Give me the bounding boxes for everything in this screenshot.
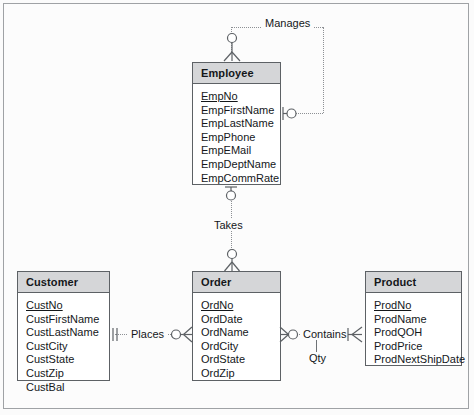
relationship-label-contains: Contains — [300, 328, 349, 340]
entity-employee[interactable]: Employee EmpNo EmpFirstName EmpLastName … — [192, 62, 281, 185]
cardinality-zero-or-many-contains-from — [278, 326, 302, 343]
attribute-ordstate: OrdState — [201, 353, 280, 367]
attribute-custcity: CustCity — [26, 340, 109, 354]
attribute-custlastname: CustLastName — [26, 326, 109, 340]
cardinality-exactly-one-places-from — [110, 327, 122, 342]
attribute-prodprice: ProdPrice — [374, 340, 461, 354]
entity-order-attributes: OrdNo OrdDate OrdName OrdCity OrdState O… — [193, 293, 280, 388]
entity-product-title: Product — [366, 272, 461, 293]
cardinality-one-or-many-contains-to — [344, 326, 366, 343]
entity-product[interactable]: Product ProdNo ProdName ProdQOH ProdPric… — [365, 271, 462, 366]
relationship-attribute-qty: Qty — [307, 352, 328, 364]
cardinality-zero-or-one-takes-from — [222, 184, 240, 206]
attribute-ordcity: OrdCity — [201, 340, 280, 354]
attribute-custno: CustNo — [26, 299, 109, 313]
attribute-emplastname: EmpLastName — [201, 117, 280, 131]
attribute-orddate: OrdDate — [201, 313, 280, 327]
attribute-custfirstname: CustFirstName — [26, 313, 109, 327]
relationship-label-manages: Manages — [262, 17, 313, 29]
attribute-empno: EmpNo — [201, 90, 280, 104]
attribute-custzip: CustZip — [26, 367, 109, 381]
attribute-empphone: EmpPhone — [201, 131, 280, 145]
entity-customer-attributes: CustNo CustFirstName CustLastName CustCi… — [18, 293, 109, 401]
er-diagram-canvas: Manages Takes Places Contains Qty Employ… — [0, 0, 474, 415]
cardinality-zero-or-one-manages-to — [279, 105, 301, 122]
attribute-empcommrate: EmpCommRate — [201, 172, 280, 186]
attribute-ordno: OrdNo — [201, 299, 280, 313]
entity-customer-title: Customer — [18, 272, 109, 293]
attribute-ordzip: OrdZip — [201, 367, 280, 381]
attribute-ordname: OrdName — [201, 326, 280, 340]
cardinality-zero-or-many-takes-to — [221, 248, 243, 272]
entity-product-attributes: ProdNo ProdName ProdQOH ProdPrice ProdNe… — [366, 293, 461, 374]
attribute-empdeptname: EmpDeptName — [201, 158, 280, 172]
attribute-prodno: ProdNo — [374, 299, 461, 313]
entity-customer[interactable]: Customer CustNo CustFirstName CustLastNa… — [17, 271, 110, 381]
entity-order-title: Order — [193, 272, 280, 293]
entity-employee-title: Employee — [193, 63, 280, 84]
attribute-custstate: CustState — [26, 353, 109, 367]
relationship-label-takes: Takes — [211, 219, 246, 231]
cardinality-zero-or-many-places-to — [170, 326, 194, 343]
attribute-empfirstname: EmpFirstName — [201, 104, 280, 118]
attribute-prodnextshipdate: ProdNextShipDate — [374, 353, 461, 367]
attribute-empemail: EmpEMail — [201, 144, 280, 158]
attribute-custbal: CustBal — [26, 381, 109, 395]
relationship-label-places: Places — [128, 328, 167, 340]
entity-order[interactable]: Order OrdNo OrdDate OrdName OrdCity OrdS… — [192, 271, 281, 381]
manages-line-down — [323, 27, 324, 113]
attribute-prodqoh: ProdQOH — [374, 326, 461, 340]
attribute-prodname: ProdName — [374, 313, 461, 327]
cardinality-zero-or-many-manages-from — [221, 30, 243, 62]
entity-employee-attributes: EmpNo EmpFirstName EmpLastName EmpPhone … — [193, 84, 280, 192]
